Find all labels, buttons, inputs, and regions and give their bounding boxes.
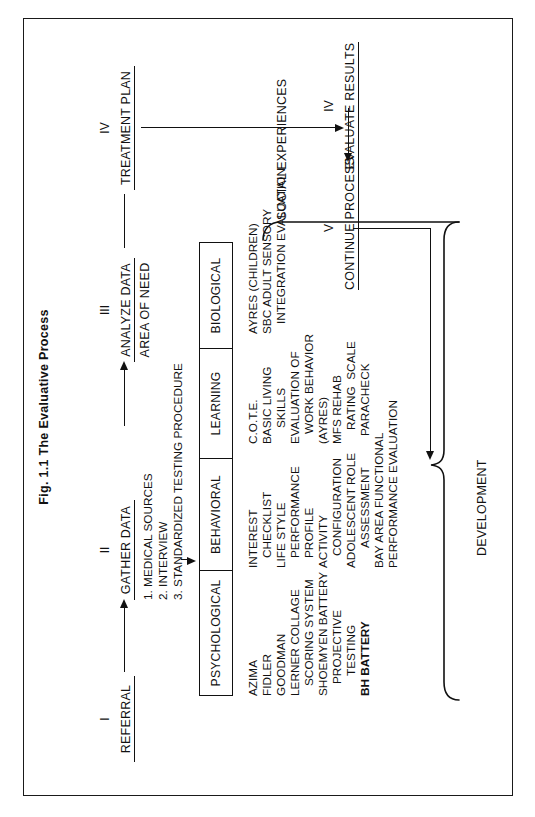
rotated-diagram-wrapper: Fig. 1.1 The Evaluative Process I REFERR… [23,18,513,796]
diagram-canvas: Fig. 1.1 The Evaluative Process I REFERR… [23,18,513,796]
figure-frame: Fig. 1.1 The Evaluative Process I REFERR… [23,18,513,796]
curved-tail-decoration [23,18,513,796]
